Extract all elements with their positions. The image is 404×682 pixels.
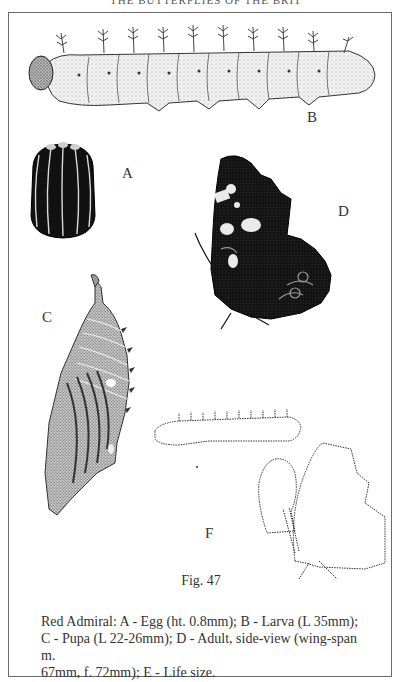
label-a: A	[122, 165, 133, 182]
figure-plate: B A	[9, 13, 393, 603]
larva-illustration	[19, 23, 379, 123]
description-line-2: C - Pupa (L 22-26mm); D - Adult, side-vi…	[41, 630, 371, 664]
description-line-1: Red Admiral: A - Egg (ht. 0.8mm); B - La…	[41, 613, 371, 630]
label-d: D	[338, 203, 349, 220]
figure-number: Fig. 47	[9, 573, 393, 589]
life-size-outlines	[149, 403, 389, 593]
egg-illustration	[23, 141, 103, 241]
label-b: B	[307, 109, 317, 126]
label-f: F	[205, 525, 213, 542]
description-line-3: 67mm, f. 72mm); E - Life size.	[41, 664, 371, 681]
adult-butterfly-illustration	[191, 149, 361, 329]
running-head: THE BUTTERFLIES OF THE BRITISH ISLES	[110, 0, 300, 4]
pupa-illustration	[37, 273, 147, 523]
figure-description: Red Admiral: A - Egg (ht. 0.8mm); B - La…	[41, 613, 371, 681]
label-c: C	[42, 309, 52, 326]
figure-frame: B A	[8, 12, 392, 677]
